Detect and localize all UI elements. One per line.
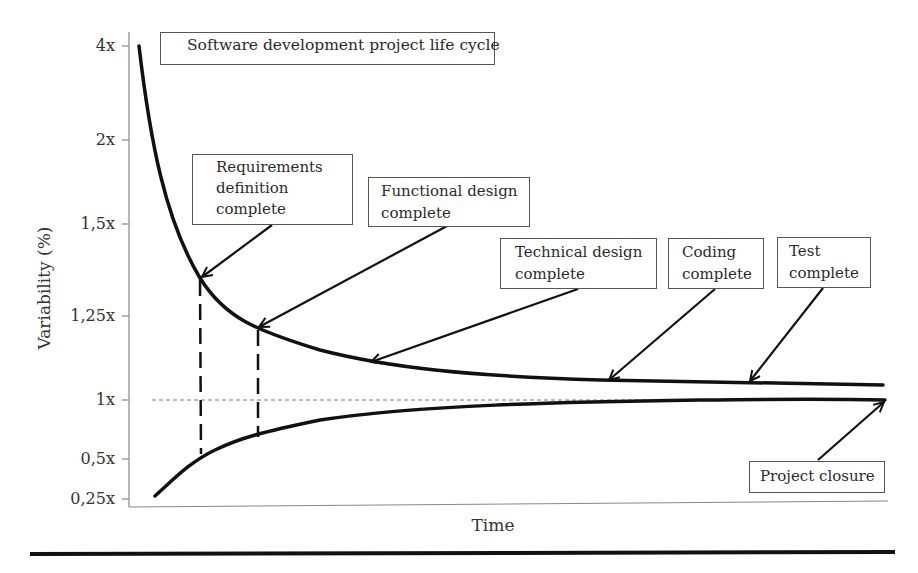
functional-arrow: [259, 226, 447, 327]
y-ticks: [122, 46, 129, 499]
functional-label-line-2: complete: [381, 202, 521, 224]
requirements-label-line-1: Requirements: [216, 157, 344, 178]
closure-arrow: [818, 402, 884, 460]
y-axis-title: Variability (%): [34, 226, 54, 349]
test-arrow: [750, 288, 823, 381]
test-label-line-2: complete: [789, 262, 862, 284]
y-tick-label-1x: 1x: [35, 390, 115, 409]
requirements-label-box: Requirements definition complete: [192, 154, 353, 225]
requirements-milestone-line: [200, 280, 201, 454]
coding-label-line-1: Coding: [682, 241, 755, 263]
chart-title: Software development project life cycle: [187, 36, 500, 54]
requirements-label-line-3: complete: [216, 199, 344, 220]
test-label-line-1: Test: [789, 240, 862, 262]
closure-label-line-1: Project closure: [760, 464, 876, 489]
coding-label-line-2: complete: [682, 263, 755, 285]
test-label-box: Test complete: [777, 237, 871, 288]
requirements-arrow: [202, 225, 272, 277]
technical-label-line-2: complete: [515, 263, 648, 285]
technical-arrow: [371, 289, 578, 362]
technical-label-line-1: Technical design: [515, 241, 648, 263]
functional-label-line-1: Functional design: [381, 180, 521, 202]
technical-label-box: Technical design complete: [500, 238, 657, 289]
requirements-label-line-2: definition: [216, 178, 344, 199]
chart-title-box: Software development project life cycle: [160, 32, 495, 65]
coding-label-box: Coding complete: [668, 238, 764, 289]
y-tick-label-0-25x: 0,25x: [35, 489, 115, 508]
x-axis: [129, 501, 888, 507]
y-tick-label-2x: 2x: [35, 130, 115, 149]
x-axis-title: Time: [472, 515, 515, 535]
closure-label-box: Project closure: [749, 461, 885, 493]
bottom-rule: [30, 552, 895, 554]
coding-arrow: [609, 289, 715, 380]
y-tick-label-0-5x: 0,5x: [35, 449, 115, 468]
y-tick-label-4x: 4x: [35, 36, 115, 55]
functional-label-box: Functional design complete: [368, 177, 530, 227]
